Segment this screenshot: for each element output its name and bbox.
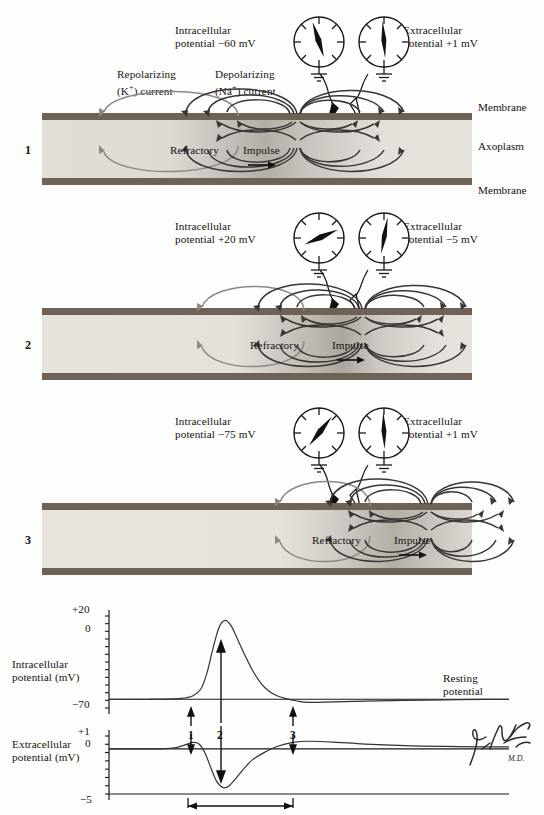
marker-2-label: 2 bbox=[217, 729, 223, 741]
panel-3-impulse-arrow bbox=[399, 550, 429, 560]
marker-1-label: 1 bbox=[188, 729, 194, 741]
panel-2-impulse-label: Impulse bbox=[332, 339, 369, 352]
panel-1-refractory-label: Refractory bbox=[170, 144, 219, 157]
panel-1: Intracellular potential −60 mV Extracell… bbox=[0, 0, 544, 205]
intracellular-axis-label: Intracellular potential (mV) bbox=[12, 658, 80, 685]
panel-1-axoplasm-label: Axoplasm bbox=[478, 140, 524, 152]
panel-1-impulse-label: Impulse bbox=[243, 144, 280, 157]
extra-tick-plus1: +1 bbox=[78, 725, 90, 737]
panel-3-impulse-label: Impulse bbox=[394, 534, 431, 547]
panel-2-number: 2 bbox=[25, 338, 31, 353]
panel-3-intracellular-label: Intracellular potential −75 mV bbox=[175, 415, 256, 442]
panel-1-extracellular-label: Extracellular potential +1 mV bbox=[403, 24, 478, 51]
panel-3: Intracellular potential −75 mV Extracell… bbox=[0, 390, 544, 590]
intra-tick-minus70: −70 bbox=[72, 698, 90, 710]
panel-3-number: 3 bbox=[25, 533, 31, 548]
panel-2-extracellular-label: Extracellular potential −5 mV bbox=[403, 220, 478, 247]
artist-signature: M.D. bbox=[464, 713, 536, 773]
figure-canvas: Intracellular potential −60 mV Extracell… bbox=[0, 0, 544, 815]
extra-tick-minus5: −5 bbox=[80, 793, 92, 805]
panel-1-number: 1 bbox=[25, 143, 31, 158]
extra-tick-zero: 0 bbox=[85, 737, 91, 749]
panel-1-impulse-arrow bbox=[248, 160, 278, 170]
panel-2-intracellular-label: Intracellular potential +20 mV bbox=[175, 220, 256, 247]
intra-tick-plus20: +20 bbox=[72, 603, 90, 615]
intra-tick-zero: 0 bbox=[85, 622, 91, 634]
graphs-section: Intracellular potential (mV) Extracellul… bbox=[0, 590, 544, 815]
time-scale-bar bbox=[103, 798, 403, 815]
panel-3-extracellular-label: Extracellular potential +1 mV bbox=[403, 415, 478, 442]
event-markers bbox=[103, 608, 513, 803]
panel-2: Intracellular potential +20 mV Extracell… bbox=[0, 195, 544, 395]
extracellular-axis-label: Extracellular potential (mV) bbox=[12, 738, 80, 765]
panel-3-refractory-label: Refractory bbox=[312, 534, 361, 547]
panel-1-membrane-top-label: Membrane bbox=[478, 101, 526, 113]
svg-text:M.D.: M.D. bbox=[507, 754, 524, 763]
panel-1-intracellular-label: Intracellular potential −60 mV bbox=[175, 24, 256, 51]
marker-3-label: 3 bbox=[290, 729, 296, 741]
panel-2-refractory-label: Refractory bbox=[250, 339, 299, 352]
panel-2-impulse-arrow bbox=[337, 355, 367, 365]
